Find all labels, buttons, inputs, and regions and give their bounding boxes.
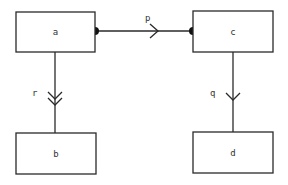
edge-label-r: r	[32, 88, 38, 98]
edge-r: r	[32, 52, 62, 133]
edge-p: p	[91, 13, 197, 38]
edge-q: q	[210, 52, 240, 132]
diagram-canvas: p r q a c b d	[0, 0, 288, 185]
node-c[interactable]: c	[193, 11, 273, 52]
node-b-label: b	[53, 149, 58, 159]
node-d[interactable]: d	[193, 132, 273, 173]
node-a[interactable]: a	[16, 12, 95, 52]
node-b[interactable]: b	[16, 133, 96, 174]
edge-label-p: p	[145, 13, 150, 23]
node-d-label: d	[230, 148, 235, 158]
edge-label-q: q	[210, 88, 215, 98]
node-c-label: c	[230, 27, 235, 37]
node-a-label: a	[53, 27, 58, 37]
